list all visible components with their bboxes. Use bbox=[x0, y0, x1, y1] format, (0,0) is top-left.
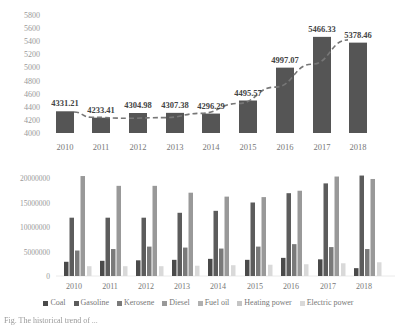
bar-kerosene bbox=[256, 247, 261, 276]
legend-swatch-icon bbox=[43, 301, 48, 306]
bar-gasoline bbox=[178, 213, 183, 276]
bar-electric-power bbox=[123, 266, 128, 276]
bar-electric-power bbox=[341, 263, 346, 276]
bar-electric-power bbox=[231, 265, 236, 276]
bar-electric-power bbox=[87, 266, 92, 276]
bottom-x-axis: 201020112012201320142015201620172018 bbox=[66, 282, 372, 291]
bar-coal bbox=[245, 260, 250, 276]
bar-diesel bbox=[225, 197, 230, 276]
legend-item-coal: Coal bbox=[43, 298, 65, 307]
bar-kerosene bbox=[147, 247, 152, 276]
bottom-grouped-bar-chart: 05000000100000001500000020000000 2010201… bbox=[0, 0, 397, 300]
legend-label: Coal bbox=[50, 298, 65, 307]
legend-item-kerosene: Kerosene bbox=[117, 298, 154, 307]
bar-gasoline bbox=[106, 218, 111, 276]
y-tick-label: 10000000 bbox=[20, 223, 50, 232]
figure-caption: Fig. The historical trend of ... bbox=[4, 316, 98, 325]
x-tick-label: 2015 bbox=[247, 282, 263, 291]
bar-gasoline bbox=[360, 176, 365, 276]
x-tick-label: 2016 bbox=[283, 282, 299, 291]
legend-item-fuel-oil: Fuel oil bbox=[198, 298, 230, 307]
bar-kerosene bbox=[183, 248, 188, 276]
bar-coal bbox=[172, 260, 177, 276]
bar-coal bbox=[208, 259, 213, 276]
legend-swatch-icon bbox=[74, 301, 79, 306]
bar-diesel bbox=[189, 193, 194, 276]
legend-label: Diesel bbox=[169, 298, 189, 307]
bar-diesel bbox=[262, 197, 267, 276]
bottom-bars bbox=[64, 176, 382, 276]
bar-coal bbox=[281, 258, 286, 276]
legend-item-diesel: Diesel bbox=[162, 298, 189, 307]
x-tick-label: 2011 bbox=[102, 282, 118, 291]
bar-diesel bbox=[371, 179, 376, 276]
bar-electric-power bbox=[159, 266, 164, 276]
bar-gasoline bbox=[287, 193, 292, 276]
legend-label: Kerosene bbox=[124, 298, 154, 307]
bar-diesel bbox=[335, 177, 340, 276]
x-tick-label: 2017 bbox=[320, 282, 336, 291]
legend-item-electric-power: Electric power bbox=[300, 298, 354, 307]
bar-kerosene bbox=[292, 244, 297, 276]
legend: CoalGasolineKeroseneDieselFuel oilHeatin… bbox=[0, 298, 397, 307]
bar-kerosene bbox=[75, 251, 80, 276]
bar-electric-power bbox=[268, 265, 273, 276]
legend-swatch-icon bbox=[300, 301, 305, 306]
bar-coal bbox=[354, 268, 359, 276]
x-tick-label: 2018 bbox=[356, 282, 372, 291]
bar-gasoline bbox=[70, 218, 75, 276]
bar-gasoline bbox=[251, 203, 256, 277]
bar-kerosene bbox=[365, 249, 370, 276]
legend-label: Heating power bbox=[244, 298, 291, 307]
legend-swatch-icon bbox=[117, 301, 122, 306]
bar-kerosene bbox=[219, 249, 224, 276]
bar-gasoline bbox=[142, 218, 147, 276]
bar-gasoline bbox=[214, 211, 219, 276]
bar-diesel bbox=[298, 191, 303, 276]
bar-coal bbox=[136, 260, 141, 276]
legend-item-heating-power: Heating power bbox=[237, 298, 291, 307]
bar-kerosene bbox=[111, 249, 116, 276]
bar-kerosene bbox=[329, 247, 334, 276]
bar-gasoline bbox=[324, 183, 329, 276]
bar-diesel bbox=[153, 186, 158, 276]
legend-swatch-icon bbox=[237, 301, 242, 306]
bar-coal bbox=[64, 262, 69, 276]
y-tick-label: 5000000 bbox=[24, 248, 51, 257]
bar-diesel bbox=[117, 186, 122, 276]
bar-coal bbox=[100, 261, 105, 276]
legend-label: Fuel oil bbox=[205, 298, 230, 307]
x-tick-label: 2013 bbox=[174, 282, 190, 291]
legend-swatch-icon bbox=[162, 301, 167, 306]
y-tick-label: 0 bbox=[46, 272, 50, 281]
bar-electric-power bbox=[304, 264, 309, 276]
legend-item-gasoline: Gasoline bbox=[74, 298, 109, 307]
x-tick-label: 2014 bbox=[210, 282, 226, 291]
bar-electric-power bbox=[195, 266, 200, 276]
legend-swatch-icon bbox=[198, 301, 203, 306]
bar-coal bbox=[318, 259, 323, 276]
y-tick-label: 20000000 bbox=[20, 174, 50, 183]
x-tick-label: 2012 bbox=[138, 282, 154, 291]
bar-diesel bbox=[81, 176, 86, 276]
bar-electric-power bbox=[377, 262, 382, 276]
y-tick-label: 15000000 bbox=[20, 199, 50, 208]
legend-label: Gasoline bbox=[81, 298, 109, 307]
x-tick-label: 2010 bbox=[66, 282, 82, 291]
legend-label: Electric power bbox=[307, 298, 354, 307]
